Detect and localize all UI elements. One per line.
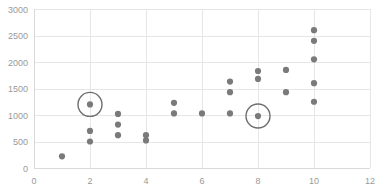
data-point bbox=[143, 132, 149, 138]
data-point bbox=[227, 79, 233, 85]
data-point bbox=[115, 111, 121, 117]
data-point bbox=[171, 110, 177, 116]
data-point bbox=[311, 99, 317, 105]
x-tick-label: 12 bbox=[365, 176, 375, 186]
y-tick-label: 2500 bbox=[8, 31, 28, 41]
data-point bbox=[59, 153, 65, 159]
scatter-chart: 050010001500200025003000 024681012 bbox=[0, 0, 376, 193]
y-tick-label: 500 bbox=[13, 137, 28, 147]
data-point bbox=[311, 56, 317, 62]
data-point bbox=[227, 110, 233, 116]
x-tick-labels: 024681012 bbox=[31, 176, 375, 186]
y-tick-label: 2000 bbox=[8, 58, 28, 68]
highlight-annotations bbox=[78, 92, 270, 128]
x-tick-label: 6 bbox=[199, 176, 204, 186]
data-point bbox=[311, 80, 317, 86]
data-point bbox=[311, 27, 317, 33]
data-point bbox=[171, 100, 177, 106]
data-point bbox=[283, 89, 289, 95]
data-points bbox=[59, 27, 317, 159]
x-tick-label: 8 bbox=[255, 176, 260, 186]
data-point bbox=[255, 76, 261, 82]
y-tick-label: 1000 bbox=[8, 111, 28, 121]
y-tick-labels: 050010001500200025003000 bbox=[8, 5, 28, 174]
data-point bbox=[115, 132, 121, 138]
data-point bbox=[227, 89, 233, 95]
data-point bbox=[143, 137, 149, 143]
data-point bbox=[115, 121, 121, 127]
x-tick-label: 0 bbox=[31, 176, 36, 186]
y-tick-label: 0 bbox=[23, 164, 28, 174]
data-point bbox=[283, 67, 289, 73]
grid-lines bbox=[34, 9, 371, 168]
plot-area: 050010001500200025003000 024681012 bbox=[0, 0, 376, 193]
x-tick-label: 4 bbox=[143, 176, 148, 186]
data-point bbox=[87, 128, 93, 134]
data-point bbox=[255, 113, 261, 119]
x-tick-label: 10 bbox=[309, 176, 319, 186]
data-point bbox=[255, 68, 261, 74]
data-point bbox=[311, 38, 317, 44]
data-point bbox=[87, 101, 93, 107]
x-tick-label: 2 bbox=[87, 176, 92, 186]
y-tick-label: 3000 bbox=[8, 5, 28, 15]
data-point bbox=[87, 138, 93, 144]
data-point bbox=[199, 110, 205, 116]
y-tick-label: 1500 bbox=[8, 84, 28, 94]
